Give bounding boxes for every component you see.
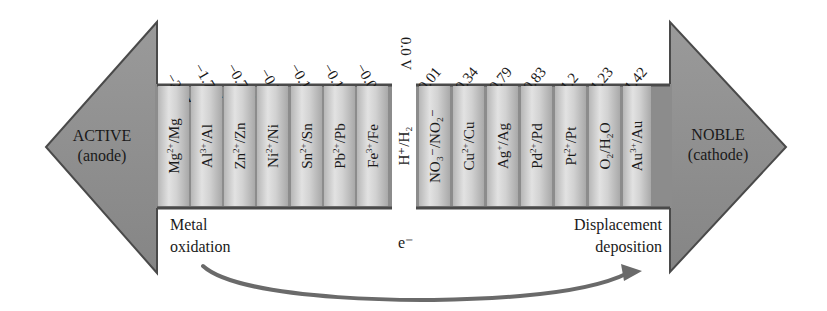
couple-pd: Pd2+/Pd: [521, 86, 552, 206]
couple-ag: Ag+/Ag: [487, 86, 518, 206]
couple-mg: Mg2+/Mg: [158, 86, 189, 206]
couple-pb: Pb2+/Pb: [324, 86, 355, 206]
couple-fe: Fe3+/Fe: [357, 86, 388, 206]
noble-subtitle: (cathode): [668, 145, 768, 165]
couple-pt: Pt2+/Pt: [555, 86, 586, 206]
couple-o2: O₂/H₂O: [589, 86, 620, 206]
couple-ni: Ni2+/Ni: [257, 86, 288, 206]
displacement-deposition-note: Displacement deposition: [540, 214, 662, 258]
electron-flow-arrow: [203, 266, 628, 300]
couple-au: Au3+/Au: [623, 86, 651, 206]
active-subtitle: (anode): [52, 146, 152, 166]
electron-label: e⁻: [398, 232, 413, 254]
couple-zn: Zn2+/Zn: [224, 86, 255, 206]
reference-couple: H⁺/H₂: [392, 86, 416, 206]
couple-no3: NO₃⁻/NO₂⁻: [419, 86, 450, 206]
noble-label: NOBLE (cathode): [668, 125, 768, 165]
couple-sn: Sn2+/Sn: [291, 86, 322, 206]
couple-al: Al3+/Al: [191, 86, 222, 206]
electron-flow-arrowhead: [621, 264, 642, 281]
active-label: ACTIVE (anode): [52, 126, 152, 166]
metal-oxidation-note: Metal oxidation: [170, 214, 230, 258]
couple-cu: Cu2+/Cu: [453, 86, 484, 206]
potential-reference: 0.0 V: [397, 37, 414, 70]
noble-title: NOBLE: [668, 125, 768, 145]
active-title: ACTIVE: [52, 126, 152, 146]
